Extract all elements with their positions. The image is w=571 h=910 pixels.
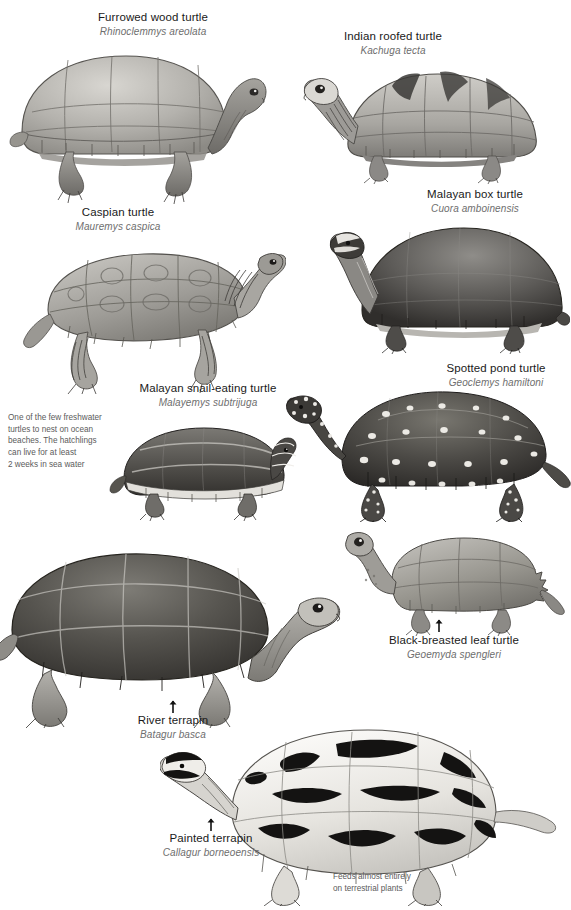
illustration-black-breasted-leaf-turtle: [340, 524, 568, 636]
species-latin-name: Geoclemys hamiltoni: [421, 377, 571, 389]
note-terrestrial-plants: Feeds almost entirely on terrestrial pla…: [333, 871, 463, 894]
species-latin-name: Callagur borneoensis: [141, 847, 281, 859]
illustration-caspian-turtle: [20, 226, 286, 394]
arrow-black-breasted-leaf-turtle-icon: [434, 619, 444, 633]
illustration-spotted-pond-turtle: [286, 380, 571, 522]
species-latin-name: Rhinoclemmys areolata: [78, 26, 228, 38]
species-latin-name: Mauremys caspica: [48, 221, 188, 233]
species-common-name: Malayan snail-eating turtle: [118, 382, 298, 396]
species-label-spotted-pond-turtle: Spotted pond turtle Geoclemys hamiltoni: [421, 362, 571, 388]
species-latin-name: Geoemyda spengleri: [364, 649, 544, 661]
illustration-plate: Furrowed wood turtle Rhinoclemmys areola…: [0, 0, 571, 910]
species-label-river-terrapin: River terrapin Batagur basca: [103, 714, 243, 740]
species-common-name: Indian roofed turtle: [318, 30, 468, 44]
species-label-indian-roofed-turtle: Indian roofed turtle Kachuga tecta: [318, 30, 468, 56]
note-sea-water: One of the few freshwater turtles to nes…: [8, 412, 112, 470]
species-common-name: Black-breasted leaf turtle: [364, 634, 544, 648]
species-common-name: Painted terrapin: [141, 832, 281, 846]
species-common-name: Spotted pond turtle: [421, 362, 571, 376]
species-label-painted-terrapin: Painted terrapin Callagur borneoensis: [141, 832, 281, 858]
arrow-river-terrapin-icon: [168, 700, 178, 714]
species-common-name: Furrowed wood turtle: [78, 11, 228, 25]
species-label-furrowed-wood-turtle: Furrowed wood turtle Rhinoclemmys areola…: [78, 11, 228, 37]
species-latin-name: Kachuga tecta: [318, 45, 468, 57]
species-label-caspian-turtle: Caspian turtle Mauremys caspica: [48, 206, 188, 232]
illustration-malayan-snail-eating-turtle: [106, 414, 298, 522]
arrow-painted-terrapin-icon: [206, 818, 216, 832]
species-label-malayan-box-turtle: Malayan box turtle Cuora amboinensis: [400, 188, 550, 214]
species-label-black-breasted-leaf-turtle: Black-breasted leaf turtle Geoemyda spen…: [364, 634, 544, 660]
illustration-indian-roofed-turtle: [300, 56, 552, 184]
illustration-furrowed-wood-turtle: [8, 40, 268, 208]
species-common-name: Malayan box turtle: [400, 188, 550, 202]
species-latin-name: Malayemys subtrijuga: [118, 397, 298, 409]
species-common-name: River terrapin: [103, 714, 243, 728]
species-latin-name: Batagur basca: [103, 729, 243, 741]
species-latin-name: Cuora amboinensis: [400, 203, 550, 215]
illustration-malayan-box-turtle: [320, 214, 570, 354]
species-label-malayan-snail-eating-turtle: Malayan snail-eating turtle Malayemys su…: [118, 382, 298, 408]
species-common-name: Caspian turtle: [48, 206, 188, 220]
